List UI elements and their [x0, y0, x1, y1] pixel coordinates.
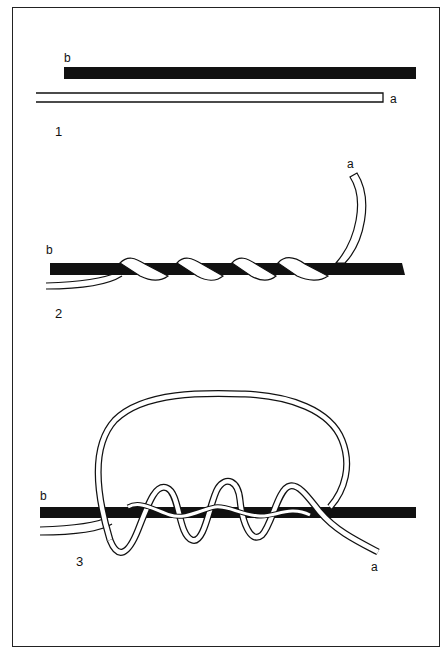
step-number: 3 — [76, 554, 83, 569]
stage-3: b a 3 — [40, 393, 416, 574]
stage-1: b a 1 — [36, 51, 416, 139]
step-number: 2 — [55, 306, 62, 321]
line-a — [36, 93, 383, 102]
label-a: a — [371, 560, 378, 574]
step-number: 1 — [55, 124, 62, 139]
label-b: b — [46, 243, 53, 257]
line-a-end — [336, 173, 366, 263]
line-b — [50, 263, 405, 275]
label-a: a — [390, 92, 397, 106]
loop — [98, 393, 346, 540]
label-b: b — [40, 489, 47, 503]
label-a: a — [347, 157, 354, 171]
line-b — [64, 67, 416, 79]
stage-2: b a 2 — [46, 157, 405, 321]
label-b: b — [64, 51, 71, 65]
